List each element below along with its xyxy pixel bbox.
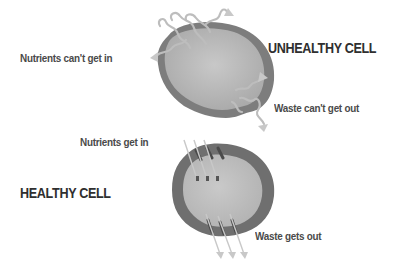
unhealthy-cell-title: UNHEALTHY CELL bbox=[268, 39, 376, 56]
waste-arrowheads bbox=[216, 252, 248, 259]
healthy-cell-title: HEALTHY CELL bbox=[20, 184, 111, 201]
healthy-cell-cytoplasm bbox=[183, 154, 262, 226]
unhealthy-cell bbox=[150, 8, 274, 132]
unhealthy-waste-label: Waste can't get out bbox=[274, 102, 359, 114]
healthy-nutrients-label: Nutrients get in bbox=[80, 136, 148, 148]
unhealthy-nutrients-label: Nutrients can't get in bbox=[20, 52, 112, 64]
healthy-waste-label: Waste gets out bbox=[255, 230, 321, 242]
